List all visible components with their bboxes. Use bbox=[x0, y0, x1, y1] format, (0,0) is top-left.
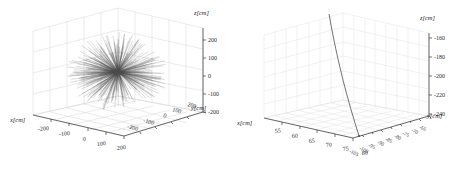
right-y-axis-label: y[cm] bbox=[426, 112, 443, 119]
right-z-ticks bbox=[429, 38, 432, 114]
right-track bbox=[329, 14, 360, 137]
right-grid-walls bbox=[264, 13, 429, 138]
right-ytick-6: -75 bbox=[402, 130, 411, 139]
left-z-ticks bbox=[203, 40, 206, 112]
right-ytick-8: -65 bbox=[419, 124, 428, 133]
left-xtick-1: -100 bbox=[58, 130, 70, 137]
left-xtick-4: 200 bbox=[116, 144, 126, 151]
right-z-axis-label: z[cm] bbox=[419, 14, 435, 21]
right-x-axis-label: x[cm] bbox=[236, 119, 253, 126]
right-ztick-1: -180 bbox=[434, 54, 445, 60]
right-3d-axes: -160 -180 -200 -220 -240 55 60 65 70 75 … bbox=[231, 0, 462, 172]
left-ytick-2: 0 bbox=[163, 112, 168, 119]
left-ytick-3: -100 bbox=[143, 117, 155, 126]
right-xtick-2: 65 bbox=[308, 137, 315, 144]
chart-panel-right: -160 -180 -200 -220 -240 55 60 65 70 75 … bbox=[231, 0, 462, 172]
right-ztick-3: -220 bbox=[434, 92, 445, 98]
right-ztick-0: -160 bbox=[434, 35, 445, 41]
left-xtick-3: 100 bbox=[96, 140, 106, 147]
left-3d-axes: 200 100 0 -100 -200 -200 -100 0 100 200 … bbox=[0, 0, 231, 172]
left-ztick-2: 0 bbox=[208, 73, 211, 79]
right-ztick-2: -200 bbox=[434, 73, 445, 79]
left-track-bundle bbox=[67, 32, 165, 110]
left-z-axis-label: z[cm] bbox=[193, 9, 209, 16]
right-xtick-0: 55 bbox=[274, 127, 281, 134]
left-xtick-0: -200 bbox=[37, 125, 49, 132]
left-ytick-4: -200 bbox=[127, 123, 139, 132]
right-xtick-1: 60 bbox=[291, 132, 298, 139]
left-x-axis-label: x[cm] bbox=[9, 116, 26, 123]
left-y-axis-label: y[cm] bbox=[190, 104, 207, 111]
right-xtick-4: 75 bbox=[342, 145, 349, 152]
left-ztick-4: -200 bbox=[208, 109, 219, 115]
left-ztick-3: -100 bbox=[208, 91, 219, 97]
right-ytick-4: -85 bbox=[385, 136, 394, 145]
left-ytick-1: 100 bbox=[172, 106, 182, 114]
left-xtick-2: 0 bbox=[82, 136, 86, 142]
left-ztick-1: 100 bbox=[208, 55, 217, 61]
left-ztick-0: 200 bbox=[208, 37, 217, 43]
chart-panel-left: 200 100 0 -100 -200 -200 -100 0 100 200 … bbox=[0, 0, 231, 172]
figure-container: 200 100 0 -100 -200 -200 -100 0 100 200 … bbox=[0, 0, 462, 172]
right-xtick-3: 70 bbox=[325, 141, 332, 148]
right-track-line bbox=[329, 14, 359, 136]
